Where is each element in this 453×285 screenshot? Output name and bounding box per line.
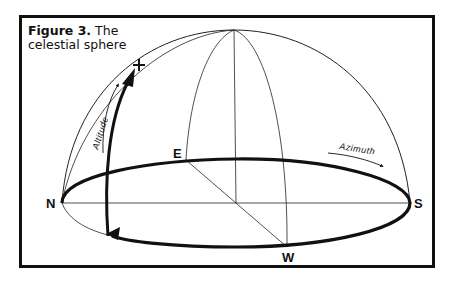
meridian-west — [234, 30, 287, 247]
label-east: E — [173, 146, 182, 161]
label-altitude: Altitude — [90, 115, 110, 151]
altitude-arc — [107, 82, 128, 236]
horizon-back-arc — [62, 203, 108, 235]
meridian-n — [62, 30, 234, 203]
label-west: W — [282, 250, 295, 265]
label-azimuth: Azimuth — [338, 141, 376, 157]
meridian-center — [234, 30, 236, 203]
label-south: S — [414, 196, 423, 211]
altitude-arrowhead — [122, 68, 135, 87]
east-west-line — [186, 160, 287, 247]
meridian-east — [186, 30, 234, 160]
celestial-sphere-diagram: N S E W Altitude Azimuth — [0, 0, 453, 285]
label-north: N — [46, 196, 55, 211]
